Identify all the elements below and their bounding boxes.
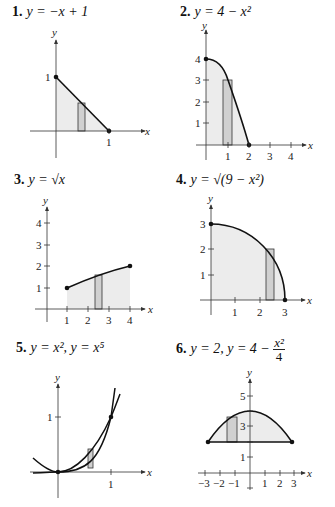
svg-text:4: 4 bbox=[288, 150, 294, 162]
svg-text:x: x bbox=[307, 139, 313, 151]
svg-text:x: x bbox=[147, 303, 153, 315]
graphs-canvas: y x 1 1 y x 1234 1234 bbox=[0, 0, 335, 507]
svg-text:1: 1 bbox=[240, 451, 246, 463]
svg-text:1: 1 bbox=[47, 411, 53, 423]
svg-text:y: y bbox=[42, 194, 48, 206]
svg-text:2: 2 bbox=[277, 477, 283, 489]
svg-text:x: x bbox=[146, 466, 152, 478]
svg-text:y: y bbox=[207, 192, 213, 204]
graph-1: y x 1 1 bbox=[30, 26, 150, 158]
x-label: x bbox=[144, 125, 150, 137]
svg-text:−3: −3 bbox=[198, 477, 210, 489]
y-label: y bbox=[51, 26, 57, 38]
svg-text:1: 1 bbox=[200, 269, 206, 281]
svg-text:−2: −2 bbox=[213, 477, 225, 489]
sample-rectangle bbox=[95, 275, 102, 309]
svg-text:1: 1 bbox=[36, 282, 42, 294]
svg-text:5: 5 bbox=[240, 390, 246, 402]
svg-text:1: 1 bbox=[108, 478, 114, 490]
svg-text:1: 1 bbox=[106, 136, 112, 148]
svg-text:1: 1 bbox=[64, 314, 70, 326]
svg-text:3: 3 bbox=[36, 239, 42, 251]
graph-2: y x 1234 1234 bbox=[195, 19, 313, 162]
sample-rectangle bbox=[227, 417, 237, 442]
svg-text:2: 2 bbox=[36, 260, 42, 272]
svg-text:y: y bbox=[201, 19, 207, 31]
svg-text:1: 1 bbox=[225, 150, 231, 162]
graph-5: y x 1 1 bbox=[30, 371, 152, 498]
svg-text:3: 3 bbox=[267, 150, 273, 162]
svg-text:2: 2 bbox=[195, 96, 201, 108]
svg-text:x: x bbox=[306, 467, 312, 479]
svg-text:3: 3 bbox=[282, 306, 288, 318]
graph-3: y x 1234 1234 bbox=[35, 194, 153, 326]
svg-text:4: 4 bbox=[127, 314, 133, 326]
graph-4: y x 123 123 bbox=[200, 192, 312, 318]
svg-text:2: 2 bbox=[200, 243, 206, 255]
svg-text:2: 2 bbox=[246, 150, 252, 162]
svg-text:3: 3 bbox=[240, 420, 246, 432]
svg-text:x: x bbox=[306, 294, 312, 306]
svg-text:3: 3 bbox=[200, 218, 206, 230]
svg-text:3: 3 bbox=[195, 74, 201, 86]
svg-text:y: y bbox=[246, 366, 252, 378]
svg-text:1: 1 bbox=[232, 306, 238, 318]
curve-x5 bbox=[33, 388, 115, 473]
sample-rectangle bbox=[78, 103, 85, 131]
svg-text:1: 1 bbox=[45, 71, 51, 83]
svg-text:2: 2 bbox=[85, 314, 91, 326]
svg-text:3: 3 bbox=[291, 477, 297, 489]
svg-text:2: 2 bbox=[257, 306, 263, 318]
svg-text:4: 4 bbox=[36, 217, 42, 229]
svg-text:y: y bbox=[54, 371, 60, 383]
svg-text:3: 3 bbox=[106, 314, 112, 326]
svg-text:1: 1 bbox=[262, 477, 268, 489]
graph-6: y x −3−2−1 123 135 bbox=[198, 366, 312, 490]
svg-text:1: 1 bbox=[195, 117, 201, 129]
svg-text:−1: −1 bbox=[228, 477, 240, 489]
svg-text:4: 4 bbox=[195, 53, 201, 65]
